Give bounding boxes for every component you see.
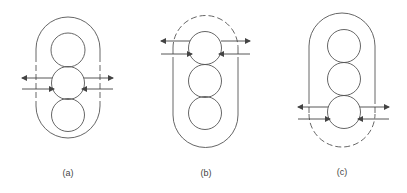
circle-bottom	[328, 96, 361, 129]
figure-label-a: (a)	[63, 168, 74, 178]
circle-bottom	[189, 97, 222, 130]
figure-c	[298, 13, 389, 147]
circle-middle	[328, 63, 361, 96]
capsule-top-solid	[309, 13, 375, 98]
circle-top	[189, 32, 222, 65]
figure-b	[161, 16, 250, 148]
circle-bottom	[52, 99, 85, 132]
capsule-bottom-solid	[173, 62, 238, 148]
circle-middle	[189, 65, 222, 98]
circle-top	[328, 30, 361, 63]
circle-middle	[52, 67, 85, 100]
diagram-canvas	[0, 0, 407, 193]
figure-label-c: (c)	[337, 167, 348, 177]
figure-a	[22, 17, 113, 138]
capsule-top-solid	[36, 17, 100, 56]
circle-top	[51, 33, 85, 67]
figure-label-b: (b)	[201, 168, 212, 178]
capsule-bottom-solid	[36, 106, 100, 138]
